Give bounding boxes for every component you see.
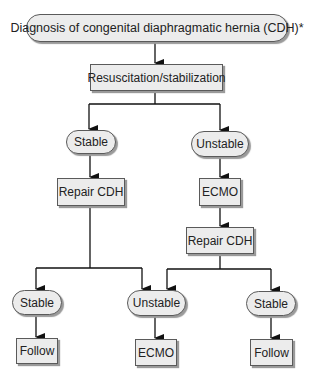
node-repair-cdh-left: Repair CDH [57,178,125,206]
node-diagnosis-cdh: Diagnosis of congenital diaphragmatic he… [26,14,288,42]
node-repair-cdh-right: Repair CDH [186,227,254,254]
node-ecmo-bottom: ECMO [135,339,177,366]
node-label: ECMO [202,185,238,199]
node-label: Stable [20,296,54,310]
node-label: Repair CDH [59,185,124,199]
node-stable-upper: Stable [66,130,116,154]
node-label: Diagnosis of congenital diaphragmatic he… [10,21,303,35]
node-ecmo-upper: ECMO [199,178,241,206]
node-stable-bottom-right: Stable [246,291,296,316]
node-label: Stable [74,135,108,149]
node-label: Follow [20,344,55,358]
node-label: Unstable [133,296,180,310]
node-label: Repair CDH [188,234,253,248]
node-unstable-bottom-middle: Unstable [127,290,186,316]
node-follow-right: Follow [250,339,293,366]
node-follow-left: Follow [16,338,58,364]
node-label: Resuscitation/stabilization [87,71,225,85]
node-label: ECMO [138,346,174,360]
node-label: Follow [254,346,289,360]
node-unstable-upper: Unstable [191,131,249,157]
node-label: Stable [254,297,288,311]
node-resuscitation-stabilization: Resuscitation/stabilization [90,64,223,91]
node-stable-bottom-left: Stable [12,290,62,315]
node-label: Unstable [196,137,243,151]
connector-lines [0,0,310,380]
